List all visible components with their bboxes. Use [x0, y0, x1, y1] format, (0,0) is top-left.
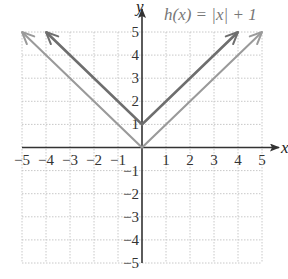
x-tick-label: −3: [62, 152, 78, 168]
x-tick-label: 3: [210, 152, 218, 168]
function-label: h(x) = |x| + 1: [164, 5, 257, 24]
y-tick-label: 4: [132, 47, 140, 63]
x-tick-label: −5: [14, 152, 30, 168]
y-tick-label: 2: [132, 93, 140, 109]
y-tick-label: −1: [123, 163, 139, 179]
absolute-value-graph: −5−4−3−2−112345−5−4−3−2−112345 x y h(x) …: [0, 0, 288, 279]
x-tick-label: 5: [258, 152, 266, 168]
y-tick-label: 3: [132, 70, 140, 86]
y-tick-label: −4: [123, 232, 139, 248]
x-tick-label: 4: [234, 152, 242, 168]
x-tick-label: −2: [86, 152, 102, 168]
x-tick-label: 2: [186, 152, 194, 168]
x-tick-label: −4: [38, 152, 54, 168]
y-tick-label: −2: [123, 186, 139, 202]
y-tick-label: −5: [123, 255, 139, 271]
x-axis-label: x: [280, 138, 288, 157]
x-tick-label: 1: [162, 152, 170, 168]
y-tick-label: 5: [132, 24, 140, 40]
y-tick-label: −3: [123, 209, 139, 225]
y-axis-label: y: [134, 0, 144, 16]
